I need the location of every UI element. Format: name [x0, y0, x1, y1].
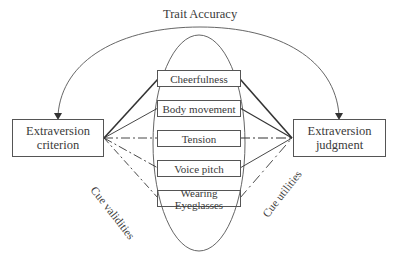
extraversion-judgment-node: Extraversion judgment [293, 119, 386, 157]
criterion-line1: Extraversion [26, 124, 90, 138]
cue-label: Voice pitch [174, 163, 224, 175]
cue-box-body-movement: Body movement [157, 100, 241, 117]
cue-label: Wearing Eyeglasses [158, 187, 240, 211]
cue-label: Cheerfulness [170, 73, 227, 85]
cue-box-tension: Tension [157, 130, 241, 147]
judgment-line2: judgment [316, 138, 363, 152]
judgment-line1: Extraversion [308, 124, 372, 138]
extraversion-criterion-node: Extraversion criterion [12, 119, 104, 157]
criterion-line2: criterion [37, 138, 79, 152]
trait-accuracy-label: Trait Accuracy [163, 7, 237, 22]
cue-validity-lines [104, 79, 158, 198]
cue-box-voice-pitch: Voice pitch [157, 160, 241, 177]
cue-label: Body movement [162, 103, 235, 115]
cue-box-cheerfulness: Cheerfulness [157, 70, 241, 87]
cue-label: Tension [182, 133, 217, 145]
cue-box-wearing-eyeglasses: Wearing Eyeglasses [157, 190, 241, 207]
